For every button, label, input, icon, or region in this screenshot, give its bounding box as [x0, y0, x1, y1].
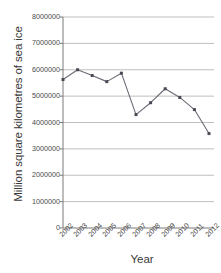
- x-axis-tick-label: 2010: [174, 222, 190, 238]
- x-axis-tick-label: 2004: [87, 222, 103, 238]
- x-axis-tick-label: 2002: [58, 222, 74, 238]
- x-axis-tick-label: 2007: [131, 222, 147, 238]
- x-axis-tick-labels: 2002200320042005200620072008200920102011…: [0, 0, 221, 273]
- x-axis-tick-label: 2005: [101, 222, 117, 238]
- x-axis-tick-label: 2012: [204, 222, 220, 238]
- line-chart: Million square kilometres of sea ice 010…: [0, 0, 221, 273]
- x-axis-tick-label: 2003: [72, 222, 88, 238]
- x-axis-tick-label: 2006: [116, 222, 132, 238]
- x-axis-tick-label: 2008: [145, 222, 161, 238]
- x-axis-title: Year: [63, 253, 221, 265]
- x-axis-tick-label: 2009: [160, 222, 176, 238]
- x-axis-tick-label: 2011: [189, 222, 205, 238]
